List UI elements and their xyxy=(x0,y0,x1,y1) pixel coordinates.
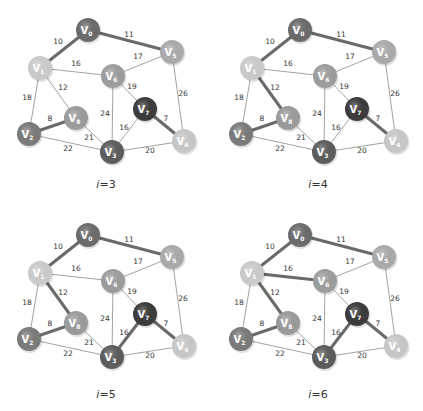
edge-weight-label: 26 xyxy=(390,294,400,303)
edge-weight-label: 12 xyxy=(270,83,280,92)
edge-weight-label: 12 xyxy=(58,288,68,297)
edge-weight-label: 21 xyxy=(296,133,306,142)
node-v3: V3 xyxy=(312,140,338,166)
edge-weight-label: 22 xyxy=(63,349,73,358)
edge-weight-label: 20 xyxy=(357,146,367,155)
node-v2: V2 xyxy=(229,327,255,353)
node-v4: V4 xyxy=(384,129,410,155)
edge-weight-label: 17 xyxy=(345,52,355,61)
edge-weight-label: 11 xyxy=(124,30,134,39)
edge-weight-label: 8 xyxy=(260,114,265,123)
edge-weight-label: 22 xyxy=(63,144,73,153)
edge-weight-label: 8 xyxy=(48,114,53,123)
edge-weight-label: 7 xyxy=(376,319,381,328)
node-v2: V2 xyxy=(17,122,43,148)
edge-weight-label: 7 xyxy=(164,319,169,328)
edge-weight-label: 18 xyxy=(234,298,244,307)
edge-weight-label: 7 xyxy=(164,114,169,123)
edge-weight-label: 17 xyxy=(133,52,143,61)
edge-weight-label: 16 xyxy=(283,59,293,68)
edge-weight-label: 16 xyxy=(119,123,129,132)
edge-weight-label: 19 xyxy=(127,287,137,296)
graph-canvas: 1011161712181926248716212220V0V1V2V3V4V5… xyxy=(0,0,212,180)
edge-weight-label: 21 xyxy=(296,338,306,347)
edge-weight-label: 24 xyxy=(100,314,110,323)
node-v8: V8 xyxy=(276,311,302,337)
step-caption: i=4 xyxy=(212,178,423,191)
edge-weight-label: 17 xyxy=(345,257,355,266)
edge-weight-label: 10 xyxy=(265,242,275,251)
edge-weight-label: 21 xyxy=(84,133,94,142)
edge-weight-label: 18 xyxy=(22,298,32,307)
node-v0: V0 xyxy=(76,18,102,44)
edge-weight-label: 16 xyxy=(119,328,129,337)
edge-weight-label: 16 xyxy=(283,264,293,273)
edge-weight-label: 18 xyxy=(22,93,32,102)
graph-canvas: 1011161712181926248716212220V0V1V2V3V4V5… xyxy=(0,205,212,390)
node-v0: V0 xyxy=(288,223,314,249)
edge-weight-label: 11 xyxy=(336,30,346,39)
edge-weight-label: 16 xyxy=(71,59,81,68)
edge-weight-label: 16 xyxy=(331,328,341,337)
edge-weight-label: 16 xyxy=(331,123,341,132)
edge-weight-label: 16 xyxy=(71,264,81,273)
edge-weight-label: 22 xyxy=(275,349,285,358)
node-v8: V8 xyxy=(64,106,90,132)
edge-weight-label: 26 xyxy=(178,294,188,303)
edge-weight-label: 18 xyxy=(234,93,244,102)
edge-weight-label: 26 xyxy=(178,89,188,98)
edge-weight-label: 26 xyxy=(390,89,400,98)
graph-panel-i5: 1011161712181926248716212220V0V1V2V3V4V5… xyxy=(0,205,212,410)
graph-panel-i4: 1011161712181926248716212220V0V1V2V3V4V5… xyxy=(212,0,423,205)
edge-weight-label: 19 xyxy=(127,82,137,91)
node-v5: V5 xyxy=(372,245,398,271)
graph-panel-i3: 1011161712181926248716212220V0V1V2V3V4V5… xyxy=(0,0,212,205)
edge-weight-label: 19 xyxy=(339,82,349,91)
node-v6: V6 xyxy=(313,269,339,295)
node-v5: V5 xyxy=(160,245,186,271)
step-caption: i=3 xyxy=(0,178,212,191)
edge-weight-label: 20 xyxy=(145,351,155,360)
node-v2: V2 xyxy=(229,122,255,148)
edge-weight-label: 11 xyxy=(336,235,346,244)
node-v3: V3 xyxy=(312,345,338,371)
edge-weight-label: 10 xyxy=(53,242,63,251)
graph-panel-i6: 1011161712181926248716212220V0V1V2V3V4V5… xyxy=(212,205,423,410)
step-caption: i=6 xyxy=(212,388,423,401)
node-v3: V3 xyxy=(100,345,126,371)
edge-weight-label: 24 xyxy=(312,314,322,323)
node-v4: V4 xyxy=(384,334,410,360)
node-v6: V6 xyxy=(101,269,127,295)
node-v0: V0 xyxy=(76,223,102,249)
edge-weight-label: 10 xyxy=(265,37,275,46)
node-v5: V5 xyxy=(372,40,398,66)
edge-weight-label: 7 xyxy=(376,114,381,123)
edge-weight-label: 8 xyxy=(260,319,265,328)
edge-weight-label: 20 xyxy=(145,146,155,155)
node-v0: V0 xyxy=(288,18,314,44)
edge-weight-label: 8 xyxy=(48,319,53,328)
edge-weight-label: 20 xyxy=(357,351,367,360)
graph-canvas: 1011161712181926248716212220V0V1V2V3V4V5… xyxy=(212,205,423,390)
node-v8: V8 xyxy=(64,311,90,337)
edge-weight-label: 12 xyxy=(270,288,280,297)
edge-weight-label: 24 xyxy=(100,109,110,118)
node-v3: V3 xyxy=(100,140,126,166)
edge-weight-label: 22 xyxy=(275,144,285,153)
node-v5: V5 xyxy=(160,40,186,66)
edge-weight-label: 11 xyxy=(124,235,134,244)
edge-weight-label: 24 xyxy=(312,109,322,118)
step-caption: i=5 xyxy=(0,388,212,401)
node-v8: V8 xyxy=(276,106,302,132)
node-v6: V6 xyxy=(101,64,127,90)
node-v2: V2 xyxy=(17,327,43,353)
node-v4: V4 xyxy=(172,334,198,360)
edge-weight-label: 19 xyxy=(339,287,349,296)
edge-weight-label: 12 xyxy=(58,83,68,92)
node-v6: V6 xyxy=(313,64,339,90)
graph-canvas: 1011161712181926248716212220V0V1V2V3V4V5… xyxy=(212,0,423,180)
edge-weight-label: 21 xyxy=(84,338,94,347)
node-v4: V4 xyxy=(172,129,198,155)
edge-weight-label: 17 xyxy=(133,257,143,266)
edge-weight-label: 10 xyxy=(53,37,63,46)
